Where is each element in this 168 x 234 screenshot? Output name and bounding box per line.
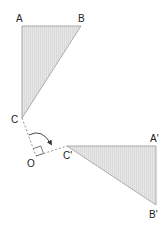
label-c: C bbox=[11, 114, 18, 125]
label-a: A bbox=[16, 13, 23, 24]
label-b-prime: B' bbox=[149, 209, 158, 220]
triangle-abc bbox=[22, 26, 81, 118]
rotation-diagram: A B C O C' A' B' bbox=[0, 0, 168, 234]
label-o: O bbox=[27, 158, 35, 169]
triangle-a-prime-b-prime-c-prime bbox=[67, 146, 156, 205]
right-angle-marker bbox=[33, 146, 43, 156]
dashed-segment-oc bbox=[22, 118, 36, 156]
label-a-prime: A' bbox=[150, 133, 159, 144]
label-b: B bbox=[78, 13, 85, 24]
rotation-arrow-icon bbox=[29, 133, 51, 144]
label-c-prime: C' bbox=[63, 150, 72, 161]
